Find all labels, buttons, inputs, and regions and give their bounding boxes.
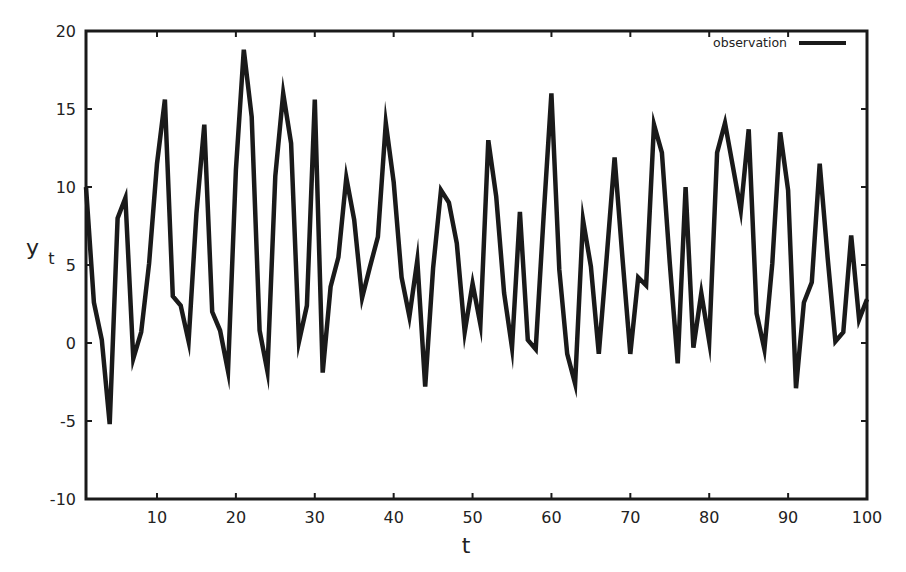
x-tick-label: 40 (383, 508, 403, 527)
plot-border (86, 31, 867, 499)
x-axis-title: t (462, 533, 471, 558)
y-tick-label: -10 (50, 490, 76, 509)
x-tick-label: 10 (147, 508, 167, 527)
y-tick-label: 15 (56, 100, 76, 119)
x-tick-label: 100 (852, 508, 883, 527)
y-tick-label: 10 (56, 178, 76, 197)
y-axis-title-subscript: t (48, 249, 54, 268)
y-tick-label: 20 (56, 22, 76, 41)
x-tick-label: 80 (699, 508, 719, 527)
x-tick-label: 70 (620, 508, 640, 527)
y-tick-label: 5 (66, 256, 76, 275)
line-chart: 102030405060708090100 -10-505101520 obse… (0, 0, 906, 572)
x-tick-label: 50 (462, 508, 482, 527)
x-tick-label: 90 (778, 508, 798, 527)
y-axis-title-main: y (26, 235, 39, 260)
x-tick-label: 60 (541, 508, 561, 527)
x-tick-label: 30 (305, 508, 325, 527)
y-axis-title: y t (26, 235, 54, 268)
legend-label-observation: observation (713, 35, 787, 50)
observation-series-line (86, 50, 867, 424)
chart-canvas: 102030405060708090100 -10-505101520 obse… (0, 0, 906, 572)
x-tick-label: 20 (226, 508, 246, 527)
legend: observation (713, 35, 846, 50)
y-tick-label: 0 (66, 334, 76, 353)
plot-frame (86, 31, 867, 499)
y-tick-label: -5 (60, 412, 76, 431)
